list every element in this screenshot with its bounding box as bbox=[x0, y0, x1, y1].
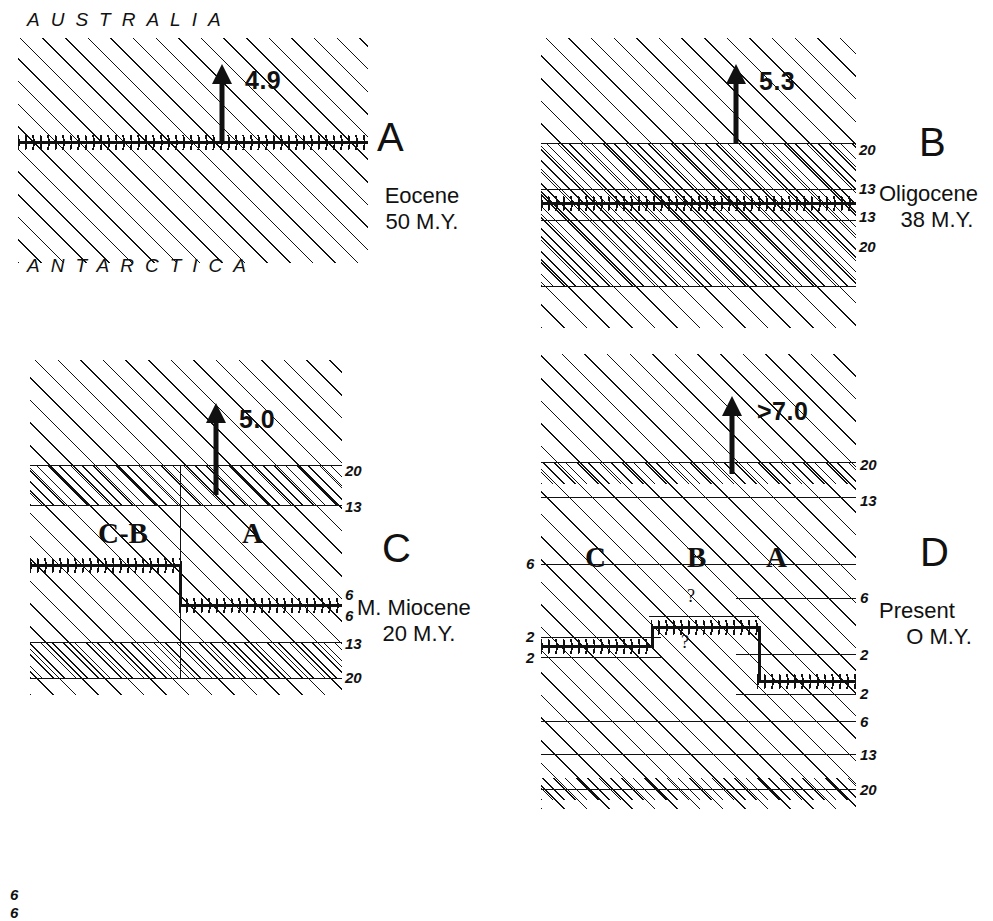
panel-b: 5.3 20 13 13 20 B Oligocene 38 M.Y. bbox=[497, 0, 993, 340]
crust-hatching-c-band2 bbox=[30, 642, 342, 678]
isochron-label-d-left-2-bottom: 2 bbox=[526, 649, 534, 666]
isochron-line-b-13-bottom bbox=[541, 220, 856, 221]
panel-d: >7.0 C B A ? ? 6 2 2 20 13 6 2 2 6 13 20… bbox=[497, 340, 993, 860]
panel-c-stage bbox=[30, 360, 342, 695]
continent-label-australia: AUSTRALIA bbox=[27, 9, 232, 31]
isochron-line-b-13-top bbox=[541, 189, 856, 190]
segment-label-c-cb: C-B bbox=[98, 517, 148, 550]
isochron-label-c-6-bottom: 6 bbox=[345, 607, 353, 624]
isochron-line-d-20-top bbox=[541, 462, 856, 463]
panel-b-stage bbox=[541, 38, 856, 328]
panel-age-b: 38 M.Y. bbox=[879, 207, 993, 233]
panel-age-d: O M.Y. bbox=[879, 624, 993, 650]
panel-a-stage bbox=[18, 38, 368, 263]
isochron-line-b-20-bottom bbox=[541, 286, 856, 287]
isochron-line-d-6-bottom bbox=[541, 721, 856, 722]
segment-label-d-b: B bbox=[687, 541, 706, 574]
spreading-rate-c: 5.0 bbox=[239, 405, 275, 434]
crust-hatching-d-band-top bbox=[541, 462, 856, 484]
isochron-line-d-2-left-bottom bbox=[541, 657, 661, 658]
isochron-label-b-13-top: 13 bbox=[859, 180, 876, 197]
isochron-label-c-13-top: 13 bbox=[345, 498, 362, 515]
panel-epoch-d: Present bbox=[879, 598, 993, 624]
panel-caption-c: M. Miocene 20 M.Y. bbox=[357, 595, 517, 647]
crust-hatching-b-inner bbox=[541, 143, 856, 286]
panel-letter-c: C bbox=[382, 526, 411, 571]
isochron-line-b-20-top bbox=[541, 143, 856, 144]
panel-c: 5.0 C-B A 6 6 20 13 6 6 13 20 C M. Mioce… bbox=[0, 340, 497, 800]
panel-age-a: 50 M.Y. bbox=[357, 209, 487, 235]
ridge-axis-b bbox=[541, 202, 856, 205]
panel-caption-a: Eocene 50 M.Y. bbox=[357, 183, 487, 235]
isochron-line-d-2-left-top bbox=[541, 637, 661, 638]
panel-d-stage bbox=[541, 354, 856, 809]
segment-label-d-c: C bbox=[585, 541, 606, 574]
isochron-label-c-20-top: 20 bbox=[345, 462, 362, 479]
ridge-axis-c-left bbox=[30, 564, 182, 567]
isochron-line-d-6-right bbox=[736, 598, 856, 599]
isochron-line-d-2-right-top bbox=[736, 654, 856, 655]
isochron-label-c-20-bottom: 20 bbox=[345, 669, 362, 686]
ridge-axis-d-segment-b bbox=[651, 626, 761, 629]
isochron-label-d-6-top: 6 bbox=[860, 589, 868, 606]
isochron-line-d-20-bottom bbox=[541, 789, 856, 790]
isochron-line-c-13-bottom bbox=[30, 642, 342, 643]
panel-caption-d: Present O M.Y. bbox=[879, 598, 993, 650]
isochron-line-d-2-mid-top bbox=[649, 616, 759, 617]
isochron-label-d-left-2-top: 2 bbox=[526, 628, 534, 645]
panel-letter-a: A bbox=[377, 115, 404, 160]
isochron-label-b-13-bottom: 13 bbox=[859, 208, 876, 225]
isochron-line-d-13-bottom bbox=[541, 754, 856, 755]
isochron-label-c-6-top: 6 bbox=[345, 586, 353, 603]
isochron-line-c-20-top bbox=[30, 465, 342, 466]
panel-letter-b: B bbox=[919, 120, 946, 165]
spreading-arrow-b bbox=[725, 64, 747, 144]
ridge-axis-d-segment-c bbox=[541, 645, 653, 648]
spreading-rate-d: >7.0 bbox=[757, 397, 808, 426]
isochron-label-c-left-6-top: 6 bbox=[10, 886, 18, 903]
isochron-label-d-2-top: 2 bbox=[860, 646, 868, 663]
panel-epoch-c: M. Miocene bbox=[357, 595, 517, 621]
ridge-axis-a bbox=[18, 141, 368, 144]
isochron-line-c-20-bottom bbox=[30, 678, 342, 679]
ridge-axis-c-right bbox=[179, 604, 342, 607]
isochron-label-d-2-bottom: 2 bbox=[860, 685, 868, 702]
crust-hatching-a bbox=[18, 38, 368, 263]
panel-epoch-b: Oligocene bbox=[879, 181, 993, 207]
panel-a: AUSTRALIA ANTARCTICA 4.9 A Eocene 50 M.Y… bbox=[0, 0, 497, 340]
question-mark-d-lower: ? bbox=[681, 632, 689, 653]
question-mark-d-upper: ? bbox=[687, 586, 695, 607]
isochron-label-d-left-6: 6 bbox=[526, 555, 534, 572]
panel-letter-d: D bbox=[920, 530, 949, 575]
isochron-label-d-20-top: 20 bbox=[860, 456, 877, 473]
segment-label-d-a: A bbox=[766, 541, 787, 574]
isochron-label-b-20-top: 20 bbox=[859, 141, 876, 158]
isochron-line-d-13-top bbox=[541, 497, 856, 498]
isochron-label-d-6-bottom: 6 bbox=[860, 713, 868, 730]
segment-label-c-a: A bbox=[242, 517, 263, 550]
panel-caption-b: Oligocene 38 M.Y. bbox=[879, 181, 993, 233]
crust-hatching-d bbox=[541, 354, 856, 809]
ridge-axis-d-segment-a bbox=[757, 680, 856, 683]
spreading-arrow-c bbox=[205, 403, 227, 495]
spreading-arrow-d bbox=[721, 396, 743, 474]
isochron-label-d-13-bottom: 13 bbox=[860, 746, 877, 763]
spreading-rate-a: 4.9 bbox=[245, 66, 281, 95]
crust-hatching-c-band1 bbox=[30, 465, 342, 505]
panel-epoch-a: Eocene bbox=[357, 183, 487, 209]
isochron-label-c-left-6-bottom: 6 bbox=[10, 904, 18, 921]
isochron-line-c-13-top bbox=[30, 505, 342, 506]
panel-age-c: 20 M.Y. bbox=[357, 621, 517, 647]
isochron-label-b-20-bottom: 20 bbox=[859, 238, 876, 255]
isochron-label-d-20-bottom: 20 bbox=[860, 781, 877, 798]
isochron-line-d-2-right-bottom bbox=[736, 694, 856, 695]
spreading-rate-b: 5.3 bbox=[759, 67, 795, 96]
continent-label-antarctica: ANTARCTICA bbox=[27, 255, 257, 277]
spreading-arrow-a bbox=[211, 64, 233, 142]
isochron-label-d-13-top: 13 bbox=[860, 492, 877, 509]
